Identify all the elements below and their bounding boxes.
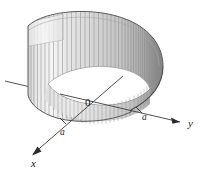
origin-label: 0: [85, 96, 91, 108]
y-axis-label: y: [187, 117, 193, 129]
y-axis-distance-label: a: [142, 112, 147, 122]
x-axis-distance-label: a: [60, 127, 65, 137]
x-axis-label: x: [30, 157, 36, 169]
solid-of-revolution-diagram: x y 0 a a: [0, 0, 201, 172]
figure-container: x y 0 a a: [0, 0, 201, 172]
